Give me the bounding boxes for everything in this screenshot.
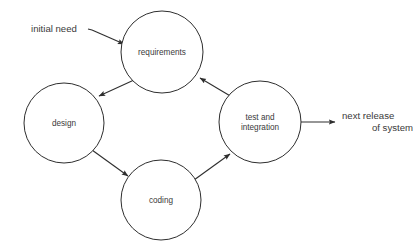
next-release-label-line2: of system (372, 122, 413, 133)
node-test-and-integration-label-line2: integration (241, 123, 280, 132)
node-coding-label: coding (149, 196, 174, 205)
node-design-label: design (52, 119, 77, 128)
edge-requirements-to-design (99, 80, 134, 96)
node-requirements-label: requirements (138, 48, 186, 57)
node-test-and-integration[interactable] (219, 81, 301, 163)
edge-design-to-coding (92, 150, 128, 176)
edge-test-to-requirements (200, 78, 232, 97)
edge-coding-to-test (194, 154, 230, 180)
next-release-label-line1: next release (342, 110, 394, 121)
node-test-and-integration-label-line1: test and (245, 113, 275, 122)
diagram-canvas: requirements design coding test and inte… (0, 0, 418, 248)
process-diagram: requirements design coding test and inte… (0, 0, 418, 248)
initial-need-label: initial need (31, 23, 77, 34)
edge-initial-need-to-requirements (88, 29, 124, 44)
